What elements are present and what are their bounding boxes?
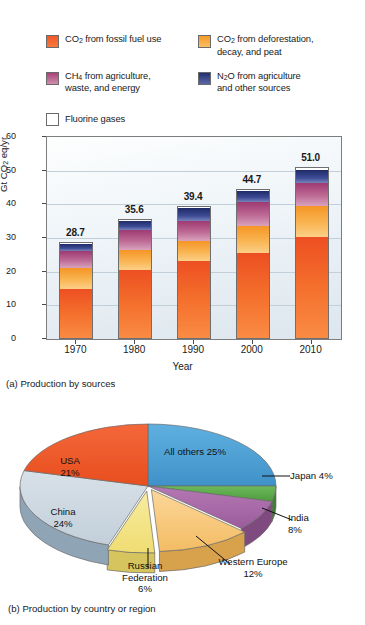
bar-segment-ch4 xyxy=(59,251,93,269)
bar-segment-fossil xyxy=(295,237,329,339)
x-axis-tick-mark xyxy=(193,340,194,344)
bar-chart-x-axis-label: Year xyxy=(0,361,365,372)
bar-segment-n2o xyxy=(236,191,270,202)
pie-label-all-others: All others 25% xyxy=(140,446,250,458)
pie-label-western-europe: Western Europe12% xyxy=(198,556,308,579)
bar-segment-ch4 xyxy=(177,221,211,242)
x-axis-tick-label-2010: 2010 xyxy=(281,344,341,355)
bar-chart-production-by-sources: Gt CO2 eq/yr 0102030405060 1970198019902… xyxy=(0,128,365,360)
bar-total-label-2000: 44.7 xyxy=(222,174,282,185)
pie-label-usa: USA21% xyxy=(40,455,100,478)
y-axis-tick-label: 50 xyxy=(0,165,16,175)
bar-total-label-1980: 35.6 xyxy=(104,204,164,215)
y-axis-tick-mark xyxy=(42,136,46,137)
bar-segment-n2o xyxy=(118,221,152,229)
legend-swatch-fluorine-gases xyxy=(46,113,59,126)
bar-1990 xyxy=(177,206,211,339)
figure-greenhouse-gas-emissions: CO2 from fossil fuel use CO2 from defore… xyxy=(0,0,365,625)
bar-total-label-2010: 51.0 xyxy=(281,152,341,163)
y-axis-tick-label: 0 xyxy=(0,333,16,343)
legend-swatch-n2o-agriculture xyxy=(198,72,211,85)
x-axis-tick-label-1990: 1990 xyxy=(163,344,223,355)
bar-segment-n2o xyxy=(59,244,93,251)
bar-total-label-1990: 39.4 xyxy=(163,191,223,202)
y-axis-tick-mark xyxy=(42,170,46,171)
caption-production-by-country: (b) Production by country or region xyxy=(8,603,156,614)
bar-1970 xyxy=(59,242,93,339)
legend-label-co2-fossil: CO2 from fossil fuel use xyxy=(65,34,161,47)
legend-item-fluorine-gases: Fluorine gases xyxy=(46,112,125,126)
y-axis-tick-label: 10 xyxy=(0,299,16,309)
y-axis-tick-mark xyxy=(42,338,46,339)
pie-label-india: India8% xyxy=(288,512,348,535)
caption-production-by-sources: (a) Production by sources xyxy=(6,378,115,389)
y-axis-tick-label: 30 xyxy=(0,232,16,242)
bar-segment-deforestation xyxy=(177,241,211,261)
chart-legend: CO2 from fossil fuel use CO2 from defore… xyxy=(46,34,356,94)
legend-item-n2o-agriculture: N2O from agricultureand other sources xyxy=(198,71,356,95)
bar-2010 xyxy=(295,167,329,339)
bar-segment-fossil xyxy=(177,261,211,339)
bar-segment-n2o xyxy=(295,170,329,183)
x-axis-tick-label-1970: 1970 xyxy=(45,344,105,355)
legend-swatch-co2-fossil xyxy=(46,35,59,48)
bar-segment-fossil xyxy=(118,270,152,339)
legend-label-ch4-agriculture: CH4 from agriculture,waste, and energy xyxy=(65,71,151,95)
pie-label-russian-federation: RussianFederation6% xyxy=(105,560,185,595)
bar-segment-ch4 xyxy=(295,183,329,206)
bar-segment-deforestation xyxy=(59,268,93,289)
y-axis-tick-label: 40 xyxy=(0,198,16,208)
legend-swatch-co2-deforestation xyxy=(198,35,211,48)
legend-item-co2-deforestation: CO2 from deforestation,decay, and peat xyxy=(198,34,356,58)
y-axis-tick-mark xyxy=(42,304,46,305)
x-axis-tick-mark xyxy=(75,340,76,344)
bar-segment-fossil xyxy=(59,289,93,339)
legend-label-fluorine-gases: Fluorine gases xyxy=(65,114,125,125)
x-axis-tick-label-2000: 2000 xyxy=(222,344,282,355)
y-axis-tick-mark xyxy=(42,271,46,272)
x-axis-tick-mark xyxy=(134,340,135,344)
y-axis-tick-label: 60 xyxy=(0,131,16,141)
bar-segment-deforestation xyxy=(295,206,329,237)
y-axis-tick-mark xyxy=(42,203,46,204)
bar-segment-fossil xyxy=(236,253,270,339)
y-axis-tick-label: 20 xyxy=(0,266,16,276)
bar-2000 xyxy=(236,189,270,339)
legend-label-co2-deforestation: CO2 from deforestation,decay, and peat xyxy=(217,34,313,58)
pie-label-china: China24% xyxy=(28,506,98,529)
bar-total-label-1970: 28.7 xyxy=(45,227,105,238)
pie-label-japan: Japan 4% xyxy=(290,470,365,482)
legend-item-co2-fossil: CO2 from fossil fuel use xyxy=(46,34,198,58)
x-axis-tick-mark xyxy=(252,340,253,344)
bar-segment-ch4 xyxy=(236,202,270,226)
bar-segment-deforestation xyxy=(118,250,152,270)
legend-item-ch4-agriculture: CH4 from agriculture,waste, and energy xyxy=(46,71,198,95)
bar-segment-deforestation xyxy=(236,226,270,253)
legend-label-n2o-agriculture: N2O from agricultureand other sources xyxy=(217,71,301,95)
x-axis-tick-mark xyxy=(311,340,312,344)
legend-swatch-ch4-agriculture xyxy=(46,72,59,85)
bar-segment-ch4 xyxy=(118,230,152,251)
bar-1980 xyxy=(118,219,152,339)
bar-segment-n2o xyxy=(177,208,211,220)
pie-chart-production-by-country: USA21% All others 25% China24% Japan 4% … xyxy=(0,398,365,625)
x-axis-tick-label-1980: 1980 xyxy=(104,344,164,355)
